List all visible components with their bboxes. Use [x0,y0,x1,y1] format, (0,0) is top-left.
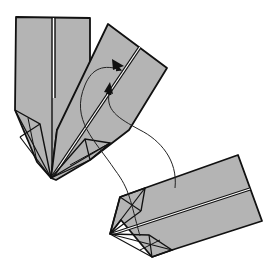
diagram-svg [0,0,278,269]
origami-diagram [0,0,278,269]
unit-inserting [110,155,262,257]
